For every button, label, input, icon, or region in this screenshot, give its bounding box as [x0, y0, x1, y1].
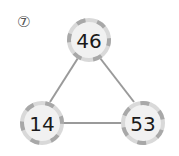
triangle-edges	[50, 58, 134, 123]
edge-top-to-bottom-right	[100, 58, 134, 102]
node-top-value: 46	[76, 29, 101, 53]
node-bottom-right: 53	[123, 103, 163, 143]
edge-top-to-bottom-left	[50, 58, 78, 102]
node-bottom-left: 14	[22, 103, 62, 143]
triangle-diagram: 46 14 53	[0, 0, 179, 156]
node-top: 46	[69, 20, 109, 60]
node-bottom-left-value: 14	[29, 112, 54, 136]
node-bottom-right-value: 53	[130, 112, 155, 136]
